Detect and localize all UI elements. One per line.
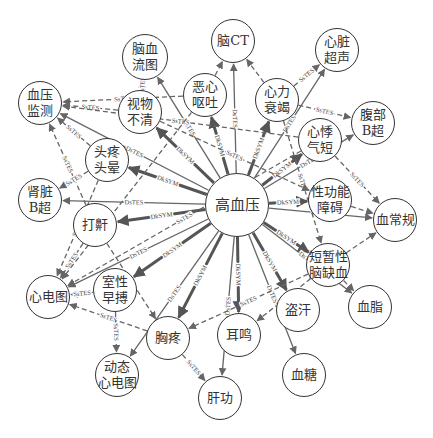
node-exot: 恶心 呕吐 xyxy=(183,73,227,117)
node-gg: 肝功 xyxy=(198,376,242,420)
edge-label: SsTES xyxy=(73,289,92,298)
edge-label: DsTES xyxy=(166,283,183,303)
edge-label: DkSYM xyxy=(277,198,300,206)
node-label: 视物 不清 xyxy=(127,96,153,128)
node-label: 心脏 超声 xyxy=(324,34,350,66)
edge-dzxnqx-xcg xyxy=(346,233,376,253)
node-swbq: 视物 不清 xyxy=(118,90,162,134)
node-label: 动态 心电图 xyxy=(98,359,137,391)
edge-label: SsTES xyxy=(349,170,366,188)
node-xjqd: 心悸 气短 xyxy=(298,118,342,162)
edge-label: SsTES xyxy=(61,155,75,174)
edge-xgnza-xcg xyxy=(351,206,373,213)
knowledge-graph-diagram: DkSYMDkSYMDkSYMDkSYMDkSYMDkSYMDkSYMDkSYM… xyxy=(0,0,433,438)
node-label: 血脂 xyxy=(357,299,383,315)
node-xt2: 血糖 xyxy=(282,353,326,397)
node-label: 肾脏 B超 xyxy=(27,184,53,216)
node-label: 脑CT xyxy=(217,33,249,49)
edge-label: SsTES xyxy=(64,172,83,187)
node-label: 高血压 xyxy=(215,197,260,213)
node-xcg: 血常规 xyxy=(373,198,417,242)
node-label: 心电图 xyxy=(29,289,68,305)
node-ttty: 头疼 头晕 xyxy=(85,138,129,182)
edge-label: SsTES xyxy=(171,116,190,125)
node-dh2: 盗汗 xyxy=(276,288,320,332)
node-label: 头疼 头晕 xyxy=(94,144,120,176)
edge-label: SsTES xyxy=(225,148,244,162)
edge-label: SsTES xyxy=(113,323,120,341)
edge-dzxnqx-xz xyxy=(344,281,354,291)
edge-label: DkSYM xyxy=(150,210,173,220)
edge-label: SsTES xyxy=(315,105,334,116)
edge-label: DkSYM xyxy=(161,240,183,258)
edge-label: DkSYM xyxy=(235,263,242,285)
edge-label: DsTES xyxy=(125,198,144,205)
node-dh: 打鼾 xyxy=(73,203,117,247)
node-dzxnqx: 短暂性 脑缺血 xyxy=(306,243,350,287)
node-label: 胸疼 xyxy=(155,330,181,346)
node-label: 耳鸣 xyxy=(226,327,252,343)
node-label: 性功能 障碍 xyxy=(311,184,350,216)
edge-label: DkSYM xyxy=(271,160,293,179)
edge-xlsj-nct xyxy=(247,59,264,82)
node-fbbc: 腹部 B超 xyxy=(351,101,395,145)
edge-label: DsTES xyxy=(232,109,239,128)
edge-exot-nct xyxy=(215,61,222,75)
edge-label: DkSYM xyxy=(251,136,265,159)
edge-label: SsTES xyxy=(186,358,203,376)
node-label: 血压 监测 xyxy=(27,87,53,119)
node-label: 腹部 B超 xyxy=(360,107,386,139)
node-xyjc: 血压 监测 xyxy=(18,81,62,125)
edge-label: DkSYM xyxy=(175,145,196,165)
edge-label: SsTES xyxy=(239,294,258,308)
center-node-gxy: 高血压 xyxy=(205,173,269,237)
edge-label: DkSYM xyxy=(192,264,208,287)
node-label: 短暂性 脑缺血 xyxy=(309,249,348,281)
edge-label: DkSYM xyxy=(262,250,279,273)
node-label: 血常规 xyxy=(376,212,415,228)
node-label: 心悸 气短 xyxy=(307,124,333,156)
node-label: 心力 衰竭 xyxy=(264,84,290,116)
node-label: 室性 早搏 xyxy=(102,274,128,306)
node-em: 耳鸣 xyxy=(217,313,261,357)
node-label: 肝功 xyxy=(207,390,233,406)
node-label: 恶心 呕吐 xyxy=(192,79,218,111)
node-label: 盗汗 xyxy=(285,302,311,318)
node-xt: 胸疼 xyxy=(146,316,190,360)
node-xdt: 心电图 xyxy=(26,275,70,319)
node-xz: 血脂 xyxy=(348,285,392,329)
edge-label: DsTES xyxy=(128,245,148,260)
node-sxzb: 室性 早搏 xyxy=(93,268,137,312)
node-xzcs: 心脏 超声 xyxy=(315,28,359,72)
edge-label: SsTES xyxy=(297,66,315,83)
edge-label: DkSYM xyxy=(156,174,179,188)
node-szbc: 肾脏 B超 xyxy=(18,178,62,222)
node-nxlt: 脑血 流图 xyxy=(122,34,168,80)
node-label: 打鼾 xyxy=(82,217,108,233)
node-label: 血糖 xyxy=(291,367,317,383)
node-nct: 脑CT xyxy=(211,19,255,63)
node-xgnza: 性功能 障碍 xyxy=(308,178,352,222)
node-label: 脑血 流图 xyxy=(132,41,158,73)
node-xlsj: 心力 衰竭 xyxy=(255,78,299,122)
node-dtxdt: 动态 心电图 xyxy=(95,353,139,397)
